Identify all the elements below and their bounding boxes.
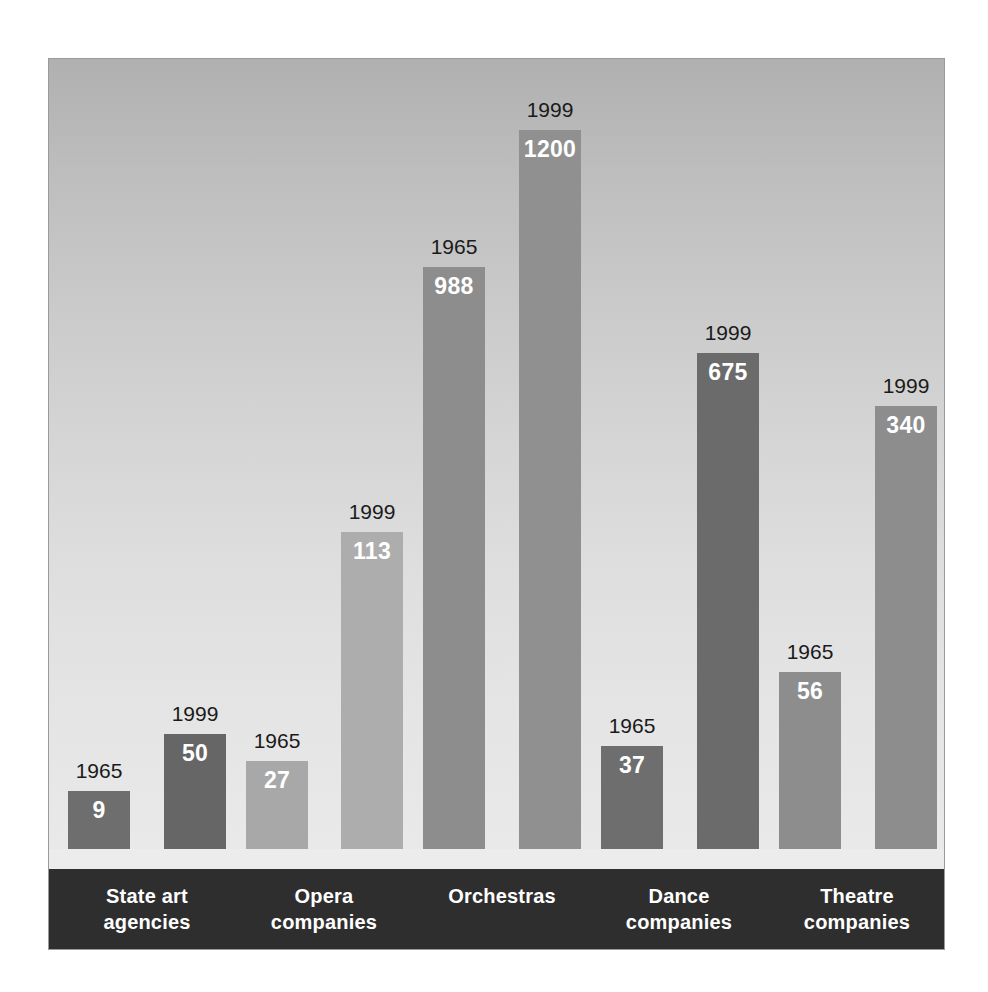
bar-theatre-1999: 340 [875, 406, 937, 849]
bar-year-label: 1999 [683, 321, 773, 345]
bar-year-label: 1999 [505, 98, 595, 122]
category-label-line2: companies [239, 909, 409, 935]
bar-orchestras-1965: 988 [423, 267, 485, 849]
bar-year-label: 1965 [587, 714, 677, 738]
bar-opera-1999: 113 [341, 532, 403, 849]
bar-state-art-1999: 50 [164, 734, 226, 849]
bar-value: 340 [875, 412, 937, 439]
plot-area: 9 1965 50 1999 27 1965 113 1999 98 [49, 59, 944, 849]
category-label-orchestras: Orchestras [417, 883, 587, 909]
bar-value: 988 [423, 273, 485, 300]
bar-orchestras-1999: 1200 [519, 130, 581, 849]
category-label-line2: companies [594, 909, 764, 935]
category-label-line1: Orchestras [448, 885, 556, 907]
bar-value: 675 [697, 359, 759, 386]
bar-dance-1999: 675 [697, 353, 759, 849]
bar-value: 50 [164, 740, 226, 767]
category-label-band: State art agencies Opera companies Orche… [49, 869, 944, 949]
bar-opera-1965: 27 [246, 761, 308, 849]
category-label-line1: Opera [295, 885, 354, 907]
bar-state-art-1965: 9 [68, 791, 130, 849]
category-label-line1: Dance [648, 885, 709, 907]
category-label-line2: agencies [62, 909, 232, 935]
category-label-theatre-companies: Theatre companies [772, 883, 942, 935]
bar-year-label: 1965 [54, 759, 144, 783]
bar-value: 9 [68, 797, 130, 824]
bar-year-label: 1965 [765, 640, 855, 664]
category-label-line2: companies [772, 909, 942, 935]
bar-year-label: 1999 [861, 374, 951, 398]
bar-value: 56 [779, 678, 841, 705]
bar-year-label: 1999 [327, 500, 417, 524]
bar-dance-1965: 37 [601, 746, 663, 849]
category-label-line1: Theatre [820, 885, 894, 907]
chart-screenshot: 9 1965 50 1999 27 1965 113 1999 98 [0, 0, 988, 992]
category-label-line1: State art [106, 885, 188, 907]
bar-year-label: 1965 [409, 235, 499, 259]
bars-layer: 9 1965 50 1999 27 1965 113 1999 98 [49, 59, 944, 849]
bar-year-label: 1999 [150, 702, 240, 726]
bar-value: 27 [246, 767, 308, 794]
bar-year-label: 1965 [232, 729, 322, 753]
bar-value: 113 [341, 538, 403, 565]
category-label-state-art-agencies: State art agencies [62, 883, 232, 935]
baseline-gap [49, 849, 944, 869]
bar-value: 1200 [519, 136, 581, 163]
bar-value: 37 [601, 752, 663, 779]
bar-theatre-1965: 56 [779, 672, 841, 849]
category-label-dance-companies: Dance companies [594, 883, 764, 935]
chart-frame: 9 1965 50 1999 27 1965 113 1999 98 [48, 58, 945, 950]
category-label-opera-companies: Opera companies [239, 883, 409, 935]
